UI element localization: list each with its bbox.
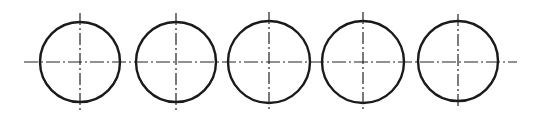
circles-diagram: [0, 0, 544, 116]
circle-4: [322, 12, 404, 110]
circle-group: [40, 12, 498, 110]
circle-3: [228, 12, 310, 110]
